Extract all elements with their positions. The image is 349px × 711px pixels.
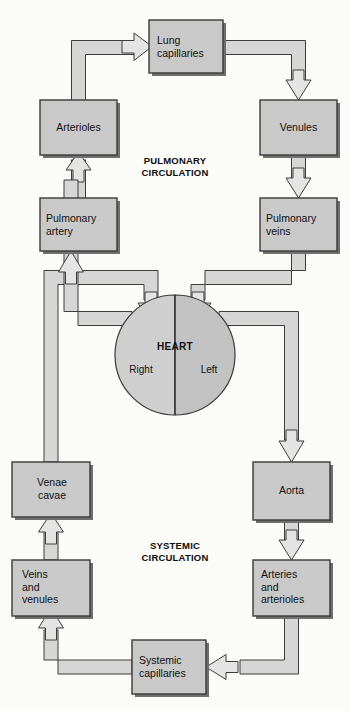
- pipe-venules-to-pulmonary-veins: [286, 153, 311, 198]
- box-arteries-arterioles[interactable]: [253, 560, 333, 619]
- box-venules[interactable]: [260, 100, 340, 158]
- box-systemic-capillaries[interactable]: [132, 640, 209, 697]
- circulation-diagram: .pipe{fill:#d6d6d6;stroke:#3d3d3d;stroke…: [0, 0, 349, 711]
- diagram-canvas: .pipe{fill:#d6d6d6;stroke:#3d3d3d;stroke…: [0, 0, 349, 711]
- heart-shape: [115, 295, 235, 415]
- heart-right-label: Right: [116, 364, 166, 375]
- heart-left-label: Left: [186, 364, 232, 375]
- box-pulmonary-artery[interactable]: [40, 198, 120, 254]
- box-aorta[interactable]: [253, 462, 333, 523]
- box-lung-capillaries[interactable]: [149, 20, 226, 76]
- pipe-arteries-to-systemic-capillaries: [206, 614, 299, 680]
- pipe-arterioles-to-lung-capillaries: [72, 33, 153, 104]
- box-venae-cavae[interactable]: [12, 462, 93, 520]
- section-label-pulmonary: PULMONARY CIRCULATION: [120, 155, 230, 179]
- section-label-systemic: SYSTEMIC CIRCULATION: [120, 540, 230, 564]
- box-arterioles[interactable]: [40, 100, 120, 158]
- pipe-lung-capillaries-to-venules: [219, 41, 311, 101]
- pipe-aorta-to-arteries-arterioles: [279, 518, 304, 560]
- box-pulmonary-veins[interactable]: [260, 198, 340, 254]
- pipe-veins-venules-to-venae-cavae: [39, 513, 64, 560]
- box-veins-and-venules[interactable]: [12, 560, 93, 619]
- heart-label: HEART: [145, 341, 205, 352]
